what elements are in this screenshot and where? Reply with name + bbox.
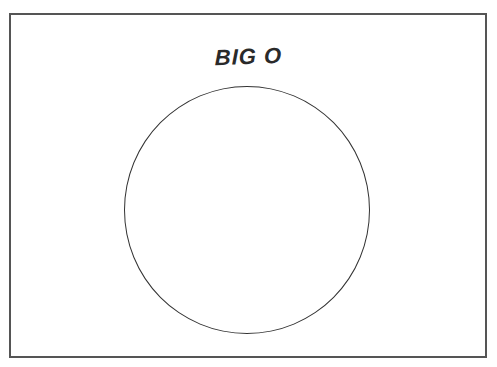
big-o-circle [124, 86, 370, 334]
